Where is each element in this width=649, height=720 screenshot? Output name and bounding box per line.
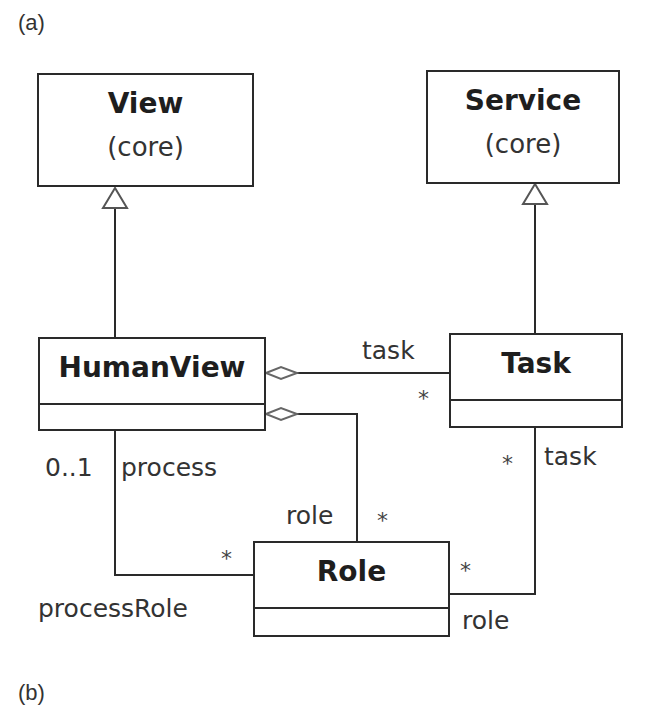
role-label-processrole: processRole bbox=[38, 596, 188, 621]
multiplicity-role: * bbox=[377, 510, 388, 532]
class-task-name: Task bbox=[451, 347, 621, 380]
class-role-name: Role bbox=[255, 555, 448, 588]
generalization-arrow-icon bbox=[103, 188, 127, 208]
multiplicity-role-end: * bbox=[460, 560, 471, 582]
class-view[interactable]: View (core) bbox=[37, 73, 254, 187]
role-label-task: task bbox=[362, 338, 415, 363]
multiplicity-task-end: * bbox=[502, 453, 513, 475]
multiplicity-task: * bbox=[418, 388, 429, 410]
class-service-stereotype: (core) bbox=[428, 129, 618, 159]
aggregation-diamond-icon bbox=[266, 367, 297, 379]
generalization-arrow-icon bbox=[523, 184, 547, 204]
class-role-divider bbox=[255, 607, 448, 609]
class-service[interactable]: Service (core) bbox=[426, 70, 620, 184]
class-view-stereotype: (core) bbox=[39, 132, 252, 162]
class-role[interactable]: Role bbox=[253, 541, 450, 637]
role-label-task-end: task bbox=[544, 444, 597, 469]
class-humanview-divider bbox=[40, 403, 264, 405]
class-view-name: View bbox=[39, 87, 252, 120]
class-task[interactable]: Task bbox=[449, 333, 623, 428]
class-humanview[interactable]: HumanView bbox=[38, 337, 266, 431]
role-label-process: process bbox=[121, 455, 217, 480]
class-service-name: Service bbox=[428, 84, 618, 117]
multiplicity-process: 0..1 bbox=[45, 455, 93, 480]
class-task-divider bbox=[451, 399, 621, 401]
role-label-role-end: role bbox=[462, 608, 509, 633]
class-humanview-name: HumanView bbox=[40, 351, 264, 384]
association-line-processrole bbox=[115, 430, 253, 575]
role-label-role: role bbox=[286, 503, 333, 528]
aggregation-diamond-icon bbox=[266, 408, 297, 420]
multiplicity-processrole: * bbox=[221, 548, 232, 570]
